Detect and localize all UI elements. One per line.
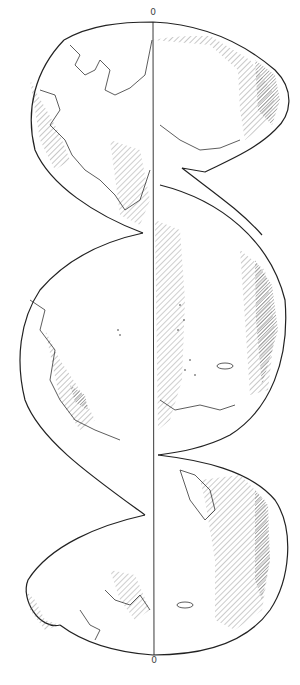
meridian-label-top: 0: [150, 7, 156, 17]
central-meridian: [153, 22, 154, 655]
middle-lobe: [20, 185, 286, 515]
upper-lobe: [30, 22, 289, 235]
meridian-label-bottom: 0: [151, 655, 157, 665]
map-canvas: [0, 0, 300, 685]
lower-lobe: [25, 455, 288, 655]
